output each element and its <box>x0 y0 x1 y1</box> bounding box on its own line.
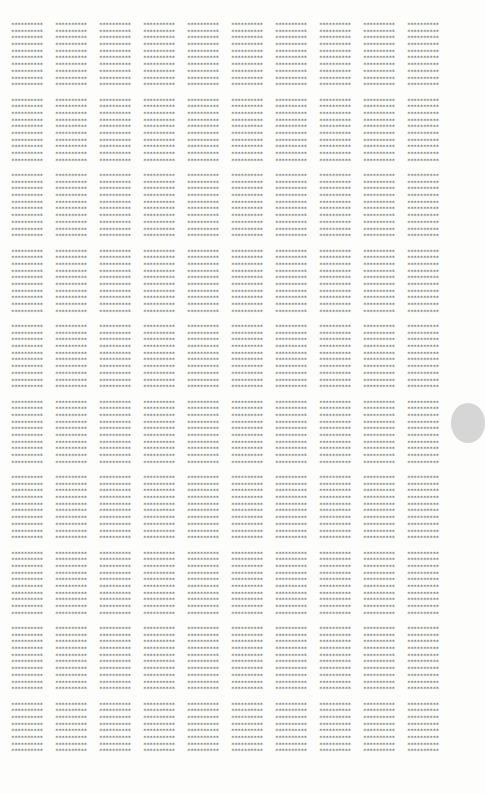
asterisk-line: ********** <box>407 488 451 495</box>
asterisk-line: ********** <box>143 98 187 105</box>
asterisk-line: ********** <box>99 639 143 646</box>
asterisk-line: ********** <box>231 433 275 440</box>
asterisk-line: ********** <box>407 302 451 309</box>
asterisk-line: ********** <box>407 584 451 591</box>
asterisk-line: ********** <box>55 400 99 407</box>
asterisk-line: ********** <box>11 626 55 633</box>
asterisk-line: ********** <box>187 151 231 158</box>
asterisk-block: ****************************************… <box>319 98 363 174</box>
asterisk-line: ********** <box>363 275 407 282</box>
asterisk-line: ********** <box>11 708 55 715</box>
asterisk-line: ********** <box>11 49 55 56</box>
asterisk-line: ********** <box>231 35 275 42</box>
asterisk-line: ********** <box>55 591 99 598</box>
asterisk-line: ********** <box>319 98 363 105</box>
asterisk-line: ********** <box>363 98 407 105</box>
asterisk-line: ********** <box>363 735 407 742</box>
asterisk-line: ********** <box>55 282 99 289</box>
asterisk-block: ****************************************… <box>407 249 451 325</box>
asterisk-line: ********** <box>363 529 407 536</box>
asterisk-line: ********** <box>363 118 407 125</box>
asterisk-line: ********** <box>99 49 143 56</box>
asterisk-line: ********** <box>275 118 319 125</box>
asterisk-line: ********** <box>231 98 275 105</box>
asterisk-line: ********** <box>55 193 99 200</box>
asterisk-line: ********** <box>231 295 275 302</box>
asterisk-line: ********** <box>407 76 451 83</box>
asterisk-line: ********** <box>143 460 187 467</box>
asterisk-line: ********** <box>187 255 231 262</box>
scroll-handle[interactable] <box>451 403 485 443</box>
asterisk-line: ********** <box>275 378 319 385</box>
asterisk-line: ********** <box>319 735 363 742</box>
asterisk-line: ********** <box>143 515 187 522</box>
asterisk-line: ********** <box>55 200 99 207</box>
asterisk-line: ********** <box>11 426 55 433</box>
asterisk-line: ********** <box>319 180 363 187</box>
asterisk-line: ********** <box>363 597 407 604</box>
asterisk-block: ****************************************… <box>319 626 363 702</box>
asterisk-line: ********** <box>275 331 319 338</box>
asterisk-line: ********** <box>99 413 143 420</box>
asterisk-line: ********** <box>231 364 275 371</box>
asterisk-line: ********** <box>319 482 363 489</box>
asterisk-line: ********** <box>275 551 319 558</box>
asterisk-line: ********** <box>143 180 187 187</box>
asterisk-line: ********** <box>143 626 187 633</box>
asterisk-line: ********** <box>99 495 143 502</box>
asterisk-line: ********** <box>275 82 319 89</box>
asterisk-line: ********** <box>363 564 407 571</box>
asterisk-line: ********** <box>319 104 363 111</box>
asterisk-line: ********** <box>99 659 143 666</box>
asterisk-line: ********** <box>99 55 143 62</box>
asterisk-line: ********** <box>363 571 407 578</box>
asterisk-line: ********** <box>231 748 275 755</box>
asterisk-line: ********** <box>231 633 275 640</box>
asterisk-line: ********** <box>319 742 363 749</box>
asterisk-line: ********** <box>11 571 55 578</box>
asterisk-line: ********** <box>143 302 187 309</box>
asterisk-line: ********** <box>187 633 231 640</box>
asterisk-line: ********** <box>99 29 143 36</box>
asterisk-line: ********** <box>187 193 231 200</box>
asterisk-line: ********** <box>55 255 99 262</box>
asterisk-line: ********** <box>99 728 143 735</box>
asterisk-line: ********** <box>143 686 187 693</box>
asterisk-line: ********** <box>99 262 143 269</box>
asterisk-line: ********** <box>363 522 407 529</box>
asterisk-line: ********** <box>319 604 363 611</box>
asterisk-line: ********** <box>363 371 407 378</box>
asterisk-line: ********** <box>319 680 363 687</box>
asterisk-block: ****************************************… <box>187 173 231 249</box>
asterisk-line: ********** <box>187 460 231 467</box>
asterisk-line: ********** <box>55 722 99 729</box>
asterisk-block: ****************************************… <box>11 702 55 778</box>
asterisk-line: ********** <box>99 289 143 296</box>
asterisk-line: ********** <box>55 686 99 693</box>
asterisk-block: ****************************************… <box>275 98 319 174</box>
asterisk-line: ********** <box>99 715 143 722</box>
asterisk-line: ********** <box>319 384 363 391</box>
asterisk-line: ********** <box>231 331 275 338</box>
asterisk-line: ********** <box>231 426 275 433</box>
asterisk-line: ********** <box>143 104 187 111</box>
asterisk-block: ****************************************… <box>319 173 363 249</box>
asterisk-line: ********** <box>319 708 363 715</box>
asterisk-line: ********** <box>11 213 55 220</box>
asterisk-line: ********** <box>55 295 99 302</box>
asterisk-line: ********** <box>99 653 143 660</box>
asterisk-line: ********** <box>99 200 143 207</box>
asterisk-line: ********** <box>407 49 451 56</box>
asterisk-line: ********** <box>99 22 143 29</box>
asterisk-line: ********** <box>275 269 319 276</box>
asterisk-line: ********** <box>55 604 99 611</box>
asterisk-line: ********** <box>143 495 187 502</box>
asterisk-line: ********** <box>187 295 231 302</box>
asterisk-line: ********** <box>143 62 187 69</box>
asterisk-line: ********** <box>231 686 275 693</box>
asterisk-line: ********** <box>319 111 363 118</box>
asterisk-line: ********** <box>99 446 143 453</box>
asterisk-line: ********** <box>55 420 99 427</box>
asterisk-line: ********** <box>11 124 55 131</box>
asterisk-line: ********** <box>363 302 407 309</box>
